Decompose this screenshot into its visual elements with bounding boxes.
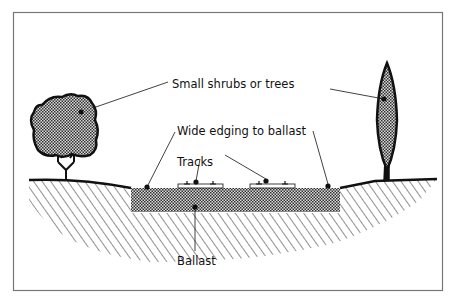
bushy-tree <box>31 94 98 180</box>
columnar-tree <box>377 63 397 181</box>
label-edging: Wide edging to ballast <box>177 124 306 138</box>
diagram-canvas: Small shrubs or trees Wide edging to bal… <box>0 0 453 303</box>
ballast-bed <box>131 188 340 212</box>
track-left <box>178 181 223 188</box>
label-ballast: Ballast <box>177 254 216 268</box>
label-shrubs: Small shrubs or trees <box>172 77 294 91</box>
track-right <box>250 181 295 188</box>
label-tracks: Tracks <box>176 155 213 169</box>
